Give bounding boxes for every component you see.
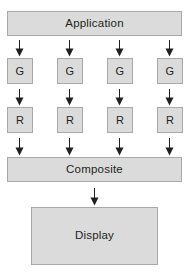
node-raster-4-label: R: [166, 115, 174, 126]
node-geometry-3-label: G: [116, 66, 125, 77]
arrow-composite-to-display: [90, 188, 99, 206]
node-raster-2-label: R: [66, 115, 74, 126]
node-raster-4: R: [157, 107, 183, 133]
arrow-raster-to-composite-2: [65, 138, 74, 156]
node-geometry-4-label: G: [166, 66, 175, 77]
node-geometry-2: G: [57, 58, 83, 84]
node-raster-2: R: [57, 107, 83, 133]
node-application-label: Application: [65, 18, 123, 30]
node-geometry-3: G: [107, 58, 133, 84]
node-display-label: Display: [75, 230, 114, 242]
node-application: Application: [7, 11, 182, 36]
node-geometry-4: G: [157, 58, 183, 84]
arrow-application-to-geometry-1: [15, 40, 24, 57]
arrow-application-to-geometry-2: [65, 40, 74, 57]
arrow-raster-to-composite-4: [165, 138, 174, 156]
node-display: Display: [31, 207, 158, 265]
node-composite-label: Composite: [66, 164, 123, 176]
node-geometry-1-label: G: [16, 66, 25, 77]
arrow-geometry-to-raster-4: [165, 89, 174, 106]
arrow-geometry-to-raster-1: [15, 89, 24, 106]
node-raster-3-label: R: [116, 115, 124, 126]
arrow-application-to-geometry-3: [115, 40, 124, 57]
pipeline-diagram: Application G G G G: [0, 0, 189, 278]
arrow-application-to-geometry-4: [165, 40, 174, 57]
node-raster-3: R: [107, 107, 133, 133]
arrow-geometry-to-raster-2: [65, 89, 74, 106]
node-geometry-2-label: G: [66, 66, 75, 77]
node-geometry-1: G: [7, 58, 33, 84]
arrow-raster-to-composite-1: [15, 138, 24, 156]
arrow-raster-to-composite-3: [115, 138, 124, 156]
arrow-geometry-to-raster-3: [115, 89, 124, 106]
node-composite: Composite: [7, 157, 182, 182]
node-raster-1-label: R: [16, 115, 24, 126]
node-raster-1: R: [7, 107, 33, 133]
